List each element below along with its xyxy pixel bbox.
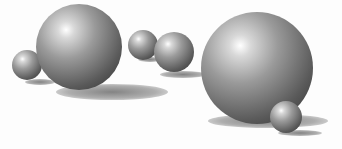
medium-sphere-b (154, 32, 194, 72)
large-left-sphere (36, 4, 122, 90)
sphere-scene (0, 0, 342, 149)
tiny-front-sphere (270, 101, 302, 133)
shadow-medium-b (160, 71, 206, 78)
